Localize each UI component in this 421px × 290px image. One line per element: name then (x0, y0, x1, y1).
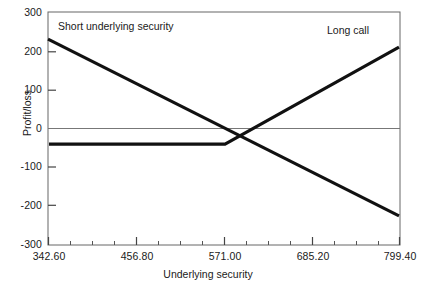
y-tick-label-300: 300 (6, 6, 42, 18)
x-tick-label-685-20: 685.20 (283, 250, 343, 262)
annotation-long-call: Long call (327, 24, 369, 36)
y-tick-label-neg300: -300 (2, 238, 42, 250)
annotation-short-underlying-security: Short underlying security (58, 20, 174, 32)
x-tick-label-456-80: 456.80 (107, 250, 167, 262)
x-tick-label-799-40: 799.40 (370, 250, 421, 262)
x-axis-title: Underlying security (0, 268, 416, 280)
y-axis-title: Profit/loss (21, 73, 33, 153)
x-tick-label-342-60: 342.60 (19, 250, 79, 262)
y-axis-title-wrapper: Profit/loss (21, 73, 35, 153)
y-tick-label-neg100: -100 (2, 160, 42, 172)
y-tick-label-200: 200 (6, 45, 42, 57)
x-tick-label-571-00: 571.00 (195, 250, 255, 262)
y-tick-label-neg200: -200 (2, 199, 42, 211)
